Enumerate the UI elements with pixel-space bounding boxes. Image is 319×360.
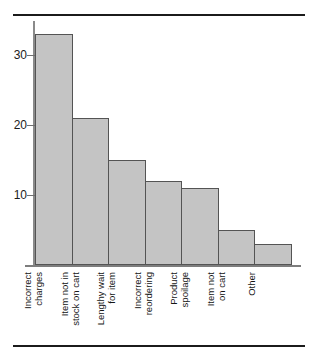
bar bbox=[181, 188, 219, 265]
bar bbox=[72, 118, 110, 265]
bar bbox=[254, 244, 292, 265]
bar-chart-plot-area: 102030 IncorrectchargesItem not instock … bbox=[0, 0, 319, 360]
x-axis-label-text: Productspoilage bbox=[168, 270, 191, 307]
x-axis-label-text: Item noton cart bbox=[204, 270, 227, 306]
bar bbox=[145, 181, 183, 265]
bar bbox=[35, 34, 73, 265]
x-axis-label-text: Incorrectreordering bbox=[131, 270, 154, 315]
x-axis-label-text: Other bbox=[246, 270, 258, 296]
bar bbox=[108, 160, 146, 265]
y-axis-tick-label: 30 bbox=[3, 49, 27, 61]
x-axis-baseline bbox=[25, 265, 301, 267]
y-axis-tick-label-wrap-10: 10 bbox=[0, 195, 35, 196]
figure-canvas: 102030 IncorrectchargesItem not instock … bbox=[0, 0, 319, 360]
x-axis-label-text: Incorrectcharges bbox=[22, 270, 45, 309]
x-axis-label: Other bbox=[254, 270, 290, 346]
bar bbox=[218, 230, 256, 265]
y-axis-tick-label: 10 bbox=[3, 189, 27, 201]
y-axis-tick-label-wrap-30: 30 bbox=[0, 55, 35, 56]
x-axis-label-text: Item not instock on cart bbox=[58, 270, 81, 326]
y-axis-tick-label-wrap-20: 20 bbox=[0, 125, 35, 126]
x-axis-label-text: Lengthy waitfor item bbox=[95, 270, 118, 325]
y-axis-tick-label: 20 bbox=[3, 119, 27, 131]
